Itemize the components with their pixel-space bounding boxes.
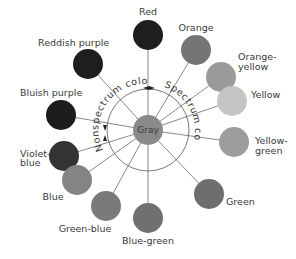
label-red: Red (139, 6, 157, 17)
label-blue-green: Blue-green (122, 235, 174, 246)
label-yellow-green-2: green (255, 145, 282, 156)
swatch-green-blue (91, 191, 121, 221)
spectrum-label: Spectrum colors (0, 0, 204, 142)
label-violet-blue-2: blue (20, 157, 41, 168)
label-reddish-purple: Reddish purple (38, 37, 109, 48)
swatch-yellow (217, 86, 247, 116)
swatch-reddish-purple (73, 49, 103, 79)
swatch-blue (62, 165, 92, 195)
label-orange: Orange (178, 22, 213, 33)
swatch-blue-green (133, 203, 163, 233)
color-wheel-diagram: Nonspectrum colors Spectrum colors Gray … (0, 0, 296, 259)
label-yellow: Yellow (250, 89, 280, 100)
label-green: Green (226, 196, 255, 207)
label-green-blue: Green-blue (59, 223, 112, 234)
arrow-down-icon (103, 125, 107, 131)
label-bluish-purple: Bluish purple (20, 87, 82, 98)
swatch-red (133, 20, 163, 50)
swatch-orange (181, 35, 211, 65)
swatch-yellow-green (219, 127, 249, 157)
label-orange-yellow-2: yellow (238, 61, 269, 72)
swatch-bluish-purple (46, 100, 76, 130)
label-blue: Blue (42, 191, 63, 202)
nonspectrum-label: Nonspectrum colors (0, 0, 148, 153)
swatch-green (194, 179, 224, 209)
center-label: Gray (137, 125, 159, 135)
